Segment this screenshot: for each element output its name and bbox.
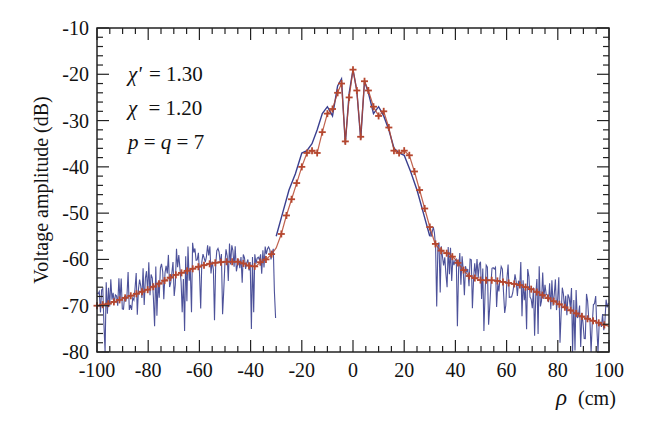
data-marker xyxy=(319,129,326,136)
x-tick-label: -20 xyxy=(288,359,315,381)
data-marker xyxy=(361,78,368,85)
x-tick-label: 0 xyxy=(348,359,358,381)
y-tick-label: -60 xyxy=(62,248,89,270)
data-marker xyxy=(353,87,360,94)
data-marker xyxy=(500,278,507,285)
data-marker xyxy=(357,133,364,140)
data-marker xyxy=(283,212,290,219)
y-tick-label: -70 xyxy=(62,295,89,317)
data-marker xyxy=(342,138,349,145)
annotation-chi-prime: χ' = 1.30 xyxy=(126,62,203,86)
x-tick-label: 80 xyxy=(548,359,568,381)
y-tick-label: -30 xyxy=(62,110,89,132)
data-marker xyxy=(278,230,285,237)
x-tick-label: 20 xyxy=(394,359,414,381)
chart: -100-80-60-40-20020406080100-10-20-30-40… xyxy=(0,0,645,433)
annotation-p-q: p = q = 7 xyxy=(126,130,204,154)
x-tick-label: 40 xyxy=(445,359,465,381)
y-tick-label: -10 xyxy=(62,17,89,39)
x-axis-title: ρ (cm) xyxy=(555,385,616,410)
x-tick-label: 100 xyxy=(594,359,624,381)
data-marker xyxy=(298,163,305,170)
data-marker xyxy=(365,87,372,94)
y-tick-label: -50 xyxy=(62,202,89,224)
y-tick-label: -80 xyxy=(62,341,89,363)
x-tick-label: -80 xyxy=(135,359,162,381)
data-marker xyxy=(350,66,357,73)
annotation-chi: χ = 1.20 xyxy=(126,96,202,120)
data-marker xyxy=(293,180,300,187)
y-tick-label: -40 xyxy=(62,156,89,178)
data-marker xyxy=(338,80,345,87)
y-axis-title: Voltage amplitude (dB) xyxy=(30,96,53,283)
data-marker xyxy=(334,89,341,96)
x-tick-label: 60 xyxy=(497,359,517,381)
data-marker xyxy=(346,94,353,101)
data-marker xyxy=(288,196,295,203)
y-tick-label: -20 xyxy=(62,63,89,85)
x-tick-label: -40 xyxy=(237,359,264,381)
x-tick-label: -60 xyxy=(186,359,213,381)
x-axis-symbol: ρ xyxy=(555,385,567,410)
x-axis-unit: (cm) xyxy=(578,387,616,410)
